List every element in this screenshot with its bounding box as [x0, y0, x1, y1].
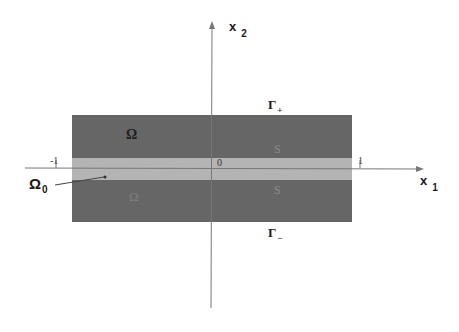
x2-label-subscript: 2 — [241, 28, 247, 39]
x1-axis-arrow-icon — [416, 166, 424, 172]
omega-zero-subscript: 0 — [42, 184, 48, 195]
tick-label-minus-one: -1 — [50, 156, 58, 166]
x2-axis-label: x2 — [229, 20, 247, 39]
x2-axis-arrow-icon — [209, 21, 215, 29]
region-lower-label: Ω — [129, 190, 139, 203]
region-upper-label: Ω — [126, 128, 137, 142]
tick-label-origin: 0 — [217, 158, 222, 168]
gamma-minus-text: Γ — [268, 225, 276, 240]
gamma-plus-text: Γ — [268, 97, 276, 112]
diagram-canvas — [0, 0, 459, 332]
tick-label-plus-one: 1 — [358, 156, 363, 166]
boundary-bottom-label: Γ− — [268, 226, 282, 243]
x2-axis — [211, 26, 212, 308]
x1-label-subscript: 1 — [432, 182, 438, 193]
layer-label: Ω0 — [29, 176, 48, 195]
domain-diagram: x2 x1 -1 0 1 Γ+ Γ− Ω Ω S S Ω0 — [0, 0, 459, 332]
gamma-minus-subscript: − — [277, 233, 282, 243]
omega-zero-text: Ω — [29, 175, 41, 192]
interface-upper-label: S — [274, 143, 281, 155]
boundary-top-label: Γ+ — [268, 98, 282, 115]
x2-label-text: x — [229, 19, 236, 34]
interface-lower-label: S — [274, 184, 281, 196]
x1-label-text: x — [420, 173, 427, 188]
x1-axis-label: x1 — [420, 174, 438, 193]
layer-leader-dot — [104, 176, 107, 179]
gamma-plus-subscript: + — [277, 105, 282, 115]
